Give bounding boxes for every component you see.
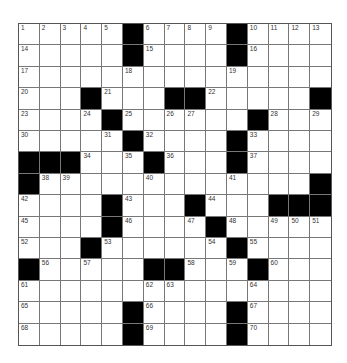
grid-cell[interactable] bbox=[40, 217, 61, 238]
grid-cell[interactable]: 65 bbox=[19, 302, 40, 323]
grid-cell[interactable]: 28 bbox=[269, 110, 290, 131]
grid-cell[interactable] bbox=[144, 88, 165, 109]
grid-cell[interactable]: 52 bbox=[19, 238, 40, 259]
grid-cell[interactable] bbox=[289, 281, 310, 302]
grid-cell[interactable]: 46 bbox=[123, 217, 144, 238]
grid-cell[interactable] bbox=[289, 88, 310, 109]
grid-cell[interactable]: 48 bbox=[227, 217, 248, 238]
grid-cell[interactable]: 63 bbox=[165, 281, 186, 302]
grid-cell[interactable]: 4 bbox=[81, 24, 102, 45]
grid-cell[interactable] bbox=[81, 217, 102, 238]
grid-cell[interactable]: 57 bbox=[81, 259, 102, 280]
grid-cell[interactable] bbox=[165, 217, 186, 238]
grid-cell[interactable]: 69 bbox=[144, 324, 165, 345]
grid-cell[interactable]: 64 bbox=[248, 281, 269, 302]
grid-cell[interactable]: 58 bbox=[185, 259, 206, 280]
grid-cell[interactable] bbox=[227, 195, 248, 216]
grid-cell[interactable] bbox=[144, 67, 165, 88]
grid-cell[interactable]: 15 bbox=[144, 45, 165, 66]
grid-cell[interactable]: 45 bbox=[19, 217, 40, 238]
grid-cell[interactable] bbox=[61, 281, 82, 302]
grid-cell[interactable] bbox=[61, 45, 82, 66]
grid-cell[interactable]: 23 bbox=[19, 110, 40, 131]
grid-cell[interactable] bbox=[40, 238, 61, 259]
grid-cell[interactable]: 13 bbox=[310, 24, 331, 45]
grid-cell[interactable]: 19 bbox=[227, 67, 248, 88]
grid-cell[interactable] bbox=[185, 174, 206, 195]
grid-cell[interactable] bbox=[81, 195, 102, 216]
grid-cell[interactable]: 6 bbox=[144, 24, 165, 45]
grid-cell[interactable] bbox=[289, 110, 310, 131]
grid-cell[interactable] bbox=[289, 174, 310, 195]
grid-cell[interactable] bbox=[269, 152, 290, 173]
grid-cell[interactable] bbox=[310, 324, 331, 345]
grid-cell[interactable] bbox=[144, 238, 165, 259]
grid-cell[interactable] bbox=[248, 88, 269, 109]
grid-cell[interactable]: 66 bbox=[144, 302, 165, 323]
grid-cell[interactable] bbox=[289, 238, 310, 259]
grid-cell[interactable] bbox=[310, 45, 331, 66]
grid-cell[interactable] bbox=[206, 67, 227, 88]
grid-cell[interactable] bbox=[81, 281, 102, 302]
grid-cell[interactable]: 42 bbox=[19, 195, 40, 216]
grid-cell[interactable] bbox=[289, 131, 310, 152]
grid-cell[interactable]: 30 bbox=[19, 131, 40, 152]
grid-cell[interactable] bbox=[81, 174, 102, 195]
grid-cell[interactable] bbox=[40, 45, 61, 66]
grid-cell[interactable] bbox=[165, 324, 186, 345]
grid-cell[interactable] bbox=[227, 88, 248, 109]
grid-cell[interactable]: 20 bbox=[19, 88, 40, 109]
grid-cell[interactable] bbox=[61, 195, 82, 216]
grid-cell[interactable] bbox=[61, 217, 82, 238]
grid-cell[interactable] bbox=[102, 324, 123, 345]
grid-cell[interactable] bbox=[185, 45, 206, 66]
grid-cell[interactable] bbox=[165, 302, 186, 323]
grid-cell[interactable]: 35 bbox=[123, 152, 144, 173]
grid-cell[interactable]: 9 bbox=[206, 24, 227, 45]
grid-cell[interactable]: 27 bbox=[185, 110, 206, 131]
grid-cell[interactable] bbox=[61, 131, 82, 152]
grid-cell[interactable] bbox=[40, 302, 61, 323]
grid-cell[interactable] bbox=[206, 302, 227, 323]
grid-cell[interactable] bbox=[102, 152, 123, 173]
grid-cell[interactable] bbox=[123, 174, 144, 195]
grid-cell[interactable]: 41 bbox=[227, 174, 248, 195]
grid-cell[interactable] bbox=[227, 110, 248, 131]
grid-cell[interactable] bbox=[61, 110, 82, 131]
grid-cell[interactable] bbox=[165, 238, 186, 259]
grid-cell[interactable] bbox=[165, 67, 186, 88]
grid-cell[interactable] bbox=[289, 324, 310, 345]
grid-cell[interactable] bbox=[81, 324, 102, 345]
grid-cell[interactable] bbox=[81, 45, 102, 66]
grid-cell[interactable] bbox=[81, 302, 102, 323]
grid-cell[interactable] bbox=[165, 45, 186, 66]
grid-cell[interactable] bbox=[123, 88, 144, 109]
grid-cell[interactable]: 1 bbox=[19, 24, 40, 45]
grid-cell[interactable]: 16 bbox=[248, 45, 269, 66]
grid-cell[interactable]: 43 bbox=[123, 195, 144, 216]
grid-cell[interactable] bbox=[206, 45, 227, 66]
grid-cell[interactable] bbox=[248, 174, 269, 195]
grid-cell[interactable] bbox=[289, 152, 310, 173]
grid-cell[interactable]: 44 bbox=[206, 195, 227, 216]
grid-cell[interactable]: 47 bbox=[185, 217, 206, 238]
grid-cell[interactable] bbox=[123, 238, 144, 259]
grid-cell[interactable] bbox=[289, 259, 310, 280]
grid-cell[interactable] bbox=[61, 67, 82, 88]
grid-cell[interactable] bbox=[123, 259, 144, 280]
grid-cell[interactable] bbox=[102, 281, 123, 302]
grid-cell[interactable] bbox=[40, 67, 61, 88]
grid-cell[interactable]: 7 bbox=[165, 24, 186, 45]
grid-cell[interactable] bbox=[248, 67, 269, 88]
grid-cell[interactable] bbox=[289, 45, 310, 66]
grid-cell[interactable] bbox=[40, 324, 61, 345]
grid-cell[interactable]: 25 bbox=[123, 110, 144, 131]
grid-cell[interactable]: 70 bbox=[248, 324, 269, 345]
grid-cell[interactable]: 39 bbox=[61, 174, 82, 195]
grid-cell[interactable] bbox=[310, 302, 331, 323]
grid-cell[interactable] bbox=[144, 110, 165, 131]
grid-cell[interactable] bbox=[81, 131, 102, 152]
grid-cell[interactable] bbox=[310, 131, 331, 152]
grid-cell[interactable]: 59 bbox=[227, 259, 248, 280]
grid-cell[interactable] bbox=[144, 217, 165, 238]
